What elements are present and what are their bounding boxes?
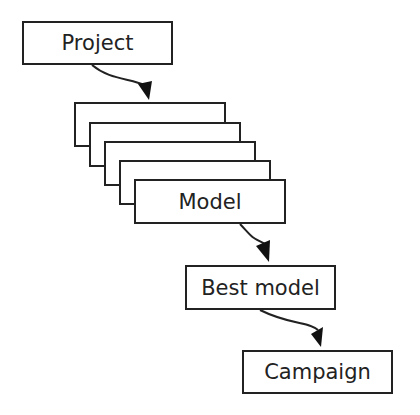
arrowhead-icon <box>256 240 270 262</box>
node-campaign: Campaign <box>242 350 393 394</box>
arrow-best-to-campaign <box>260 310 318 330</box>
node-label: Project <box>62 31 134 55</box>
node-model: Model <box>134 179 286 224</box>
node-best-model: Best model <box>185 265 336 310</box>
arrowhead-icon <box>138 81 152 100</box>
node-label: Model <box>178 190 241 214</box>
node-label: Campaign <box>264 360 371 384</box>
node-label: Best model <box>201 276 320 300</box>
node-project: Project <box>22 21 173 65</box>
arrow-project-to-model <box>92 65 147 86</box>
arrow-model-to-best <box>240 224 265 244</box>
